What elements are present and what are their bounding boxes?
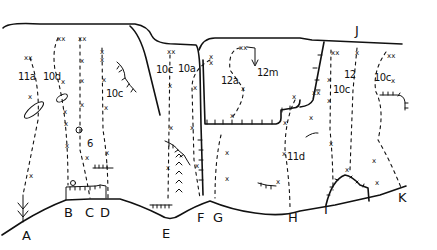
svg-text:x: x	[230, 112, 234, 120]
svg-text:x: x	[391, 77, 395, 85]
svg-text:x: x	[327, 76, 331, 84]
svg-text:x: x	[276, 178, 280, 186]
cleft-right-edge	[203, 60, 300, 124]
svg-text:x: x	[209, 59, 213, 67]
start-label-g: G	[213, 210, 223, 225]
route-j	[350, 48, 357, 170]
svg-text:x: x	[193, 84, 197, 92]
grade-label: 6	[87, 138, 93, 149]
svg-text:x: x	[282, 150, 286, 158]
svg-text:x: x	[63, 108, 67, 116]
start-label-d: D	[100, 205, 110, 220]
svg-text:xx: xx	[331, 49, 339, 57]
svg-text:x: x	[166, 164, 170, 172]
svg-text:x: x	[345, 166, 349, 174]
svg-text:x: x	[292, 93, 296, 101]
svg-text:x: x	[225, 175, 229, 183]
svg-text:x: x	[283, 119, 287, 127]
central-pillar-edge	[199, 38, 402, 50]
svg-text:x: x	[190, 124, 194, 132]
dihedral-line	[300, 42, 324, 107]
svg-text:xx: xx	[24, 54, 32, 62]
svg-text:x: x	[100, 48, 104, 56]
start-label-h: H	[288, 210, 298, 225]
svg-text:x: x	[64, 120, 68, 128]
route-d	[102, 48, 108, 198]
svg-text:x: x	[28, 93, 32, 101]
svg-text:x: x	[29, 172, 33, 180]
svg-text:x: x	[309, 114, 313, 122]
svg-text:x: x	[100, 56, 104, 64]
svg-text:x: x	[65, 142, 69, 150]
svg-text:x: x	[80, 77, 84, 85]
svg-text:xx: xx	[387, 52, 395, 60]
svg-text:x: x	[329, 140, 333, 148]
start-label-i: I	[324, 202, 328, 217]
route-g	[215, 135, 221, 198]
svg-text:x: x	[195, 162, 199, 170]
svg-text:xx: xx	[57, 35, 65, 43]
svg-text:x: x	[104, 104, 108, 112]
route-a-start	[18, 195, 28, 222]
svg-text:x: x	[168, 82, 172, 90]
tree-icon	[71, 181, 76, 186]
grade-label: 10c	[333, 84, 350, 95]
grade-label: 10c	[374, 72, 391, 83]
start-label-j: J	[354, 23, 359, 38]
svg-text:x: x	[355, 49, 359, 57]
grade-label: 10c	[156, 64, 173, 75]
start-label-e: E	[162, 226, 170, 241]
grade-label: 12	[344, 69, 356, 80]
svg-text:xx: xx	[78, 35, 86, 43]
grade-label: 12a	[221, 75, 239, 86]
svg-text:x: x	[372, 157, 376, 165]
svg-text:x: x	[80, 57, 84, 65]
svg-text:x: x	[102, 76, 106, 84]
svg-text:xx: xx	[312, 89, 320, 97]
svg-text:xx: xx	[239, 44, 247, 52]
svg-text:x: x	[327, 97, 331, 105]
svg-text:xx: xx	[167, 48, 175, 56]
start-label-b: B	[64, 205, 73, 220]
start-label-a: A	[22, 228, 31, 243]
start-label-f: F	[197, 210, 204, 225]
svg-text:x: x	[225, 149, 229, 157]
route-j-left	[330, 50, 333, 190]
svg-text:x: x	[85, 154, 89, 162]
grade-label: 11a	[18, 71, 36, 82]
svg-text:x: x	[61, 78, 65, 86]
svg-text:x: x	[375, 179, 379, 187]
start-label-k: K	[398, 190, 407, 205]
climbing-topo-diagram: xx xx xx x x x x x x x x x x x x x x x x…	[0, 0, 437, 250]
grade-label: 11d	[287, 151, 305, 162]
grade-label: 10d	[43, 71, 61, 82]
roof-tick-marks	[207, 106, 290, 124]
grade-label: 12m	[257, 67, 278, 78]
svg-text:x: x	[169, 124, 173, 132]
svg-text:x: x	[80, 101, 84, 109]
pocket-feature	[22, 99, 46, 121]
start-label-c: C	[85, 205, 94, 220]
svg-text:x: x	[241, 85, 245, 93]
grade-label: 10c	[106, 88, 123, 99]
grade-label: 10a	[178, 63, 196, 74]
svg-text:x: x	[105, 149, 109, 157]
